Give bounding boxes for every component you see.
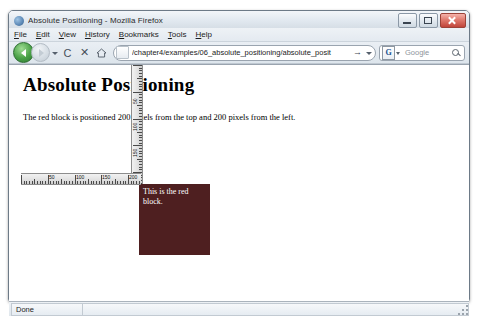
ruler-tick (139, 137, 142, 138)
ruler-tick (139, 151, 142, 152)
ruler-tick (131, 181, 132, 184)
ruler-tick (96, 181, 97, 184)
menu-item-bookmarks[interactable]: Bookmarks (119, 30, 164, 39)
ruler-tick (120, 181, 121, 184)
ruler-tick (139, 102, 142, 103)
ruler-tick (109, 181, 110, 184)
ruler-tick (66, 181, 67, 184)
menu-item-tools[interactable]: Tools (168, 30, 192, 39)
ruler-tick (139, 70, 142, 71)
stop-icon[interactable]: ✕ (76, 44, 93, 62)
ruler-tick (139, 167, 142, 168)
ruler-tick (139, 148, 142, 149)
ruler-tick (133, 145, 142, 146)
page-paragraph: The red block is positioned 200 pixels f… (23, 112, 295, 122)
ruler-tick (29, 181, 30, 184)
search-input[interactable]: Google (402, 48, 451, 57)
search-bar[interactable]: G Google (379, 45, 465, 61)
ruler-tick (137, 105, 142, 106)
ruler-tick (93, 181, 94, 184)
ruler-tick (139, 81, 142, 82)
page-title: Absolute Positioning (23, 74, 194, 96)
chevron-down-icon[interactable] (395, 47, 402, 59)
ruler-label: 150 (102, 174, 110, 180)
menu-bar: File Edit View History Bookmarks Tools H… (9, 28, 469, 42)
menu-item-history[interactable]: History (85, 30, 115, 39)
ruler-tick (137, 159, 142, 160)
ruler-label: 150 (132, 149, 138, 157)
ruler-tick (104, 181, 105, 184)
home-icon[interactable] (93, 44, 110, 62)
ruler-label: 100 (132, 123, 138, 131)
ruler-tick (133, 65, 142, 66)
ruler-tick (26, 181, 27, 184)
resize-grip-icon[interactable] (456, 303, 468, 315)
ruler-tick (139, 135, 142, 136)
google-icon[interactable]: G (382, 46, 395, 60)
chevron-down-icon[interactable] (50, 44, 59, 62)
page-content: Absolute Positioning The red block is po… (9, 64, 469, 301)
ruler-tick (37, 181, 38, 184)
close-button[interactable] (440, 13, 466, 28)
reload-icon[interactable]: C (59, 44, 76, 62)
window-title: Absolute Positioning - Mozilla Firefox (28, 16, 163, 25)
ruler-tick (85, 181, 86, 184)
menu-item-view[interactable]: View (59, 30, 81, 39)
ruler-tick (137, 78, 142, 79)
ruler-tick (56, 181, 57, 184)
ruler-tick (139, 124, 142, 125)
ruler-tick (40, 181, 41, 184)
ruler-tick (139, 140, 142, 141)
red-block: This is the red block. (139, 184, 210, 255)
title-bar: Absolute Positioning - Mozilla Firefox (9, 11, 469, 28)
ruler-tick (88, 179, 89, 184)
ruler-tick (139, 73, 142, 74)
maximize-button[interactable] (419, 13, 438, 28)
ruler-tick (117, 181, 118, 184)
ruler-tick (139, 127, 142, 128)
chevron-down-icon[interactable] (365, 46, 373, 60)
forward-arrow-icon (31, 43, 50, 62)
ruler-tick (32, 181, 33, 184)
url-bar[interactable]: /chapter4/examples/06_absolute_positioni… (113, 45, 376, 61)
menu-item-help[interactable]: Help (196, 30, 217, 39)
minimize-button[interactable] (398, 13, 417, 28)
ruler-tick (139, 129, 142, 130)
firefox-logo-icon (14, 16, 24, 26)
horizontal-ruler: 50100150200 (21, 173, 141, 185)
ruler-tick (139, 156, 142, 157)
ruler-tick (24, 181, 25, 184)
ruler-tick (58, 181, 59, 184)
go-button[interactable]: → (350, 48, 365, 57)
ruler-tick (139, 116, 142, 117)
ruler-tick (64, 181, 65, 184)
search-icon[interactable] (451, 47, 462, 59)
ruler-tick (139, 68, 142, 69)
ruler-tick (42, 181, 43, 184)
page-favicon-icon (116, 46, 129, 59)
window-controls (398, 13, 466, 28)
menu-item-file[interactable]: File (14, 30, 32, 39)
ruler-label: 200 (129, 174, 137, 180)
ruler-label: 100 (76, 174, 84, 180)
ruler-tick (91, 181, 92, 184)
ruler-tick (53, 181, 54, 184)
ruler-tick (133, 119, 142, 120)
menu-item-edit[interactable]: Edit (36, 30, 55, 39)
status-filler (83, 303, 469, 316)
ruler-tick (139, 108, 142, 109)
ruler-tick (34, 179, 35, 184)
ruler-tick (139, 84, 142, 85)
ruler-tick (112, 181, 113, 184)
url-input[interactable]: /chapter4/examples/06_absolute_positioni… (132, 48, 350, 57)
ruler-tick (139, 161, 142, 162)
ruler-tick (139, 97, 142, 98)
ruler-tick (139, 100, 142, 101)
status-text: Done (16, 305, 34, 314)
ruler-tick (139, 86, 142, 87)
ruler-tick (136, 181, 137, 184)
ruler-tick (139, 143, 142, 144)
ruler-tick (125, 181, 126, 184)
ruler-tick (139, 153, 142, 154)
ruler-tick (139, 113, 142, 114)
